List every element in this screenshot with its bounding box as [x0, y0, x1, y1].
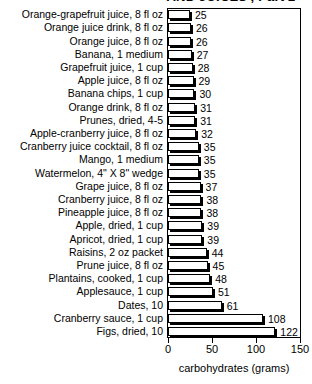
bar-value-label: 45 [213, 261, 225, 272]
category-axis-labels: Orange-grapefruit juice, 8 fl ozOrange j… [0, 8, 163, 338]
bar-value-label: 35 [204, 169, 216, 180]
bar-body [168, 23, 191, 32]
bar-value-label: 39 [207, 221, 219, 232]
bar-value-label: 25 [195, 10, 207, 21]
bar-value-label: 35 [204, 155, 216, 166]
category-label: Cranberry sauce, 1 cup [0, 313, 163, 324]
x-axis-title: carbohydrates (grams) [167, 362, 301, 375]
category-label: Figs, dried, 10 [0, 326, 163, 337]
bar [168, 301, 222, 312]
bar-body [168, 50, 192, 59]
bar [168, 261, 208, 272]
bars-layer: 2526262728293031313235353537383839394445… [168, 9, 300, 337]
bar-value-label: 122 [280, 327, 298, 338]
bar-body [168, 287, 213, 296]
bar [168, 10, 190, 21]
bar-value-label: 37 [206, 182, 218, 193]
bar-value-label: 51 [218, 287, 230, 298]
x-axis-ticks: 050100150 [167, 338, 301, 343]
bar-value-label: 26 [196, 37, 208, 48]
bar-value-label: 38 [206, 195, 218, 206]
bar [168, 129, 196, 140]
category-label: Grapefruit juice, 1 cup [0, 62, 163, 73]
bar-value-label: 27 [197, 50, 209, 61]
category-label: Banana chips, 1 cup [0, 88, 163, 99]
bar-value-label: 38 [206, 208, 218, 219]
bar-value-label: 108 [268, 314, 286, 325]
bar-value-label: 31 [200, 103, 212, 114]
bar-value-label: 29 [199, 76, 211, 87]
category-label: Dates, 10 [0, 300, 163, 311]
category-label: Watermelon, 4" X 8" wedge [0, 168, 163, 179]
category-label: Plantains, cooked, 1 cup [0, 273, 163, 284]
bar-value-label: 61 [227, 301, 239, 312]
bar [168, 274, 210, 285]
bar [168, 248, 207, 259]
bar-body [168, 116, 195, 125]
bar [168, 221, 202, 232]
bar [168, 155, 199, 166]
category-label: Pineapple juice, 8 fl oz [0, 207, 163, 218]
bar [168, 89, 194, 100]
bar [168, 182, 201, 193]
bar-body [168, 327, 275, 336]
bar-body [168, 182, 201, 191]
bar [168, 142, 199, 153]
bar-body [168, 261, 208, 270]
bar [168, 195, 201, 206]
category-label: Orange juice drink, 8 fl oz [0, 22, 163, 33]
category-label: Cranberry juice, 8 fl oz [0, 194, 163, 205]
category-label: Banana, 1 medium [0, 49, 163, 60]
category-label: Apple, dried, 1 cup [0, 220, 163, 231]
category-label: Prunes, dried, 4-5 [0, 115, 163, 126]
bar [168, 208, 201, 219]
bar [168, 63, 193, 74]
bar-value-label: 39 [207, 235, 219, 246]
bar-body [168, 235, 202, 244]
category-label: Prune juice, 8 fl oz [0, 260, 163, 271]
bar-chart: AND JUICES', Part 2 Orange-grapefruit ju… [0, 0, 312, 384]
bar [168, 314, 263, 325]
bar-body [168, 10, 190, 19]
bar-body [168, 195, 201, 204]
bar [168, 103, 195, 114]
category-label: Grape juice, 8 fl oz [0, 181, 163, 192]
bar-value-label: 44 [212, 248, 224, 259]
bar-body [168, 37, 191, 46]
bar-value-label: 35 [204, 142, 216, 153]
bar-body [168, 208, 201, 217]
bar-body [168, 169, 199, 178]
x-tick-label: 150 [291, 343, 309, 356]
bar-value-label: 32 [201, 129, 213, 140]
x-tick-label: 0 [165, 343, 171, 356]
category-label: Apple juice, 8 fl oz [0, 75, 163, 86]
chart-title: AND JUICES', Part 2 [150, 0, 312, 3]
category-label: Applesauce, 1 cup [0, 286, 163, 297]
bar-body [168, 301, 222, 310]
bar-body [168, 76, 194, 85]
bar-body [168, 248, 207, 257]
bar [168, 169, 199, 180]
bar [168, 235, 202, 246]
bar-value-label: 26 [196, 23, 208, 34]
bar-value-label: 31 [200, 116, 212, 127]
bar [168, 50, 192, 61]
category-label: Orange-grapefruit juice, 8 fl oz [0, 9, 163, 20]
bar [168, 76, 194, 87]
category-label: Orange drink, 8 fl oz [0, 102, 163, 113]
bar [168, 287, 213, 298]
bar-body [168, 274, 210, 283]
bar-value-label: 28 [198, 63, 210, 74]
bar-body [168, 63, 193, 72]
category-label: Mango, 1 medium [0, 154, 163, 165]
category-label: Apricot, dried, 1 cup [0, 234, 163, 245]
bar-body [168, 89, 194, 98]
bar-value-label: 48 [215, 274, 227, 285]
category-label: Raisins, 2 oz packet [0, 247, 163, 258]
bar-body [168, 221, 202, 230]
bar-body [168, 314, 263, 323]
category-label: Orange juice, 8 fl oz [0, 36, 163, 47]
bar [168, 116, 195, 127]
bar-value-label: 30 [199, 89, 211, 100]
bar [168, 327, 275, 338]
